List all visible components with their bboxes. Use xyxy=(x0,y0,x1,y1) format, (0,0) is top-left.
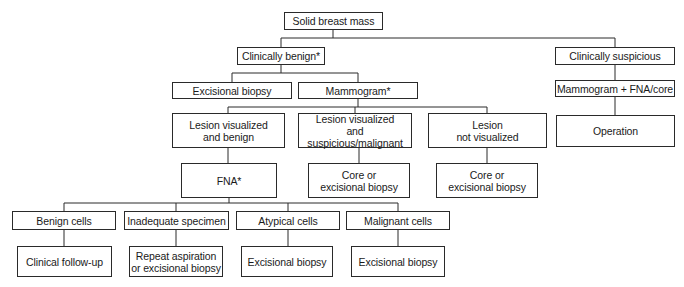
node-label-line1: Lesion xyxy=(472,119,502,131)
node-label: Clinical follow-up xyxy=(26,256,103,268)
node-lesion-visualized-benign: Lesion visualized and benign xyxy=(172,113,285,148)
node-label-line2: excisional biopsy xyxy=(448,181,526,193)
node-atypical-cells: Atypical cells xyxy=(236,211,340,230)
node-excisional-biopsy-malignant: Excisional biopsy xyxy=(351,246,445,277)
node-label: Atypical cells xyxy=(258,215,317,227)
node-operation: Operation xyxy=(556,115,675,147)
node-label: Clinically suspicious xyxy=(569,50,660,62)
node-label-line2: or excisional biopsy xyxy=(131,262,221,274)
node-mammogram-fna-core: Mammogram + FNA/core xyxy=(555,80,675,97)
node-label-line1: Core or xyxy=(342,169,376,181)
node-label: Mammogram + FNA/core xyxy=(557,83,673,95)
node-label: FNA* xyxy=(217,175,242,187)
node-label: Excisional biopsy xyxy=(193,85,272,97)
node-label: Inadequate specimen xyxy=(127,215,226,227)
node-label-line2: and suspicious/malignant xyxy=(299,125,411,149)
node-excisional-biopsy: Excisional biopsy xyxy=(172,82,292,99)
node-excisional-biopsy-atypical: Excisional biopsy xyxy=(241,246,333,277)
node-fna: FNA* xyxy=(181,163,277,198)
node-clinically-benign: Clinically benign* xyxy=(237,47,325,65)
node-label: Mammogram* xyxy=(326,85,391,97)
node-label: Malignant cells xyxy=(364,215,432,227)
node-solid-breast-mass: Solid breast mass xyxy=(284,12,383,30)
node-label: Benign cells xyxy=(36,215,91,227)
node-label-line1: Repeat aspiration xyxy=(136,250,217,262)
node-label: Operation xyxy=(593,125,638,137)
node-core-excisional-biopsy-suspicious: Core or excisional biopsy xyxy=(308,163,410,198)
node-repeat-aspiration: Repeat aspiration or excisional biopsy xyxy=(129,246,223,277)
node-benign-cells: Benign cells xyxy=(12,211,116,230)
node-lesion-not-visualized: Lesion not visualized xyxy=(428,113,547,148)
node-malignant-cells: Malignant cells xyxy=(346,211,450,230)
node-label: Clinically benign* xyxy=(242,50,320,62)
node-inadequate-specimen: Inadequate specimen xyxy=(124,211,229,230)
node-label-line1: Lesion visualized xyxy=(316,113,394,125)
node-label-line1: Core or xyxy=(470,169,504,181)
node-label: Excisional biopsy xyxy=(359,256,438,268)
node-clinically-suspicious: Clinically suspicious xyxy=(555,47,675,65)
node-label-line1: Lesion visualized xyxy=(189,119,267,131)
node-clinical-follow-up: Clinical follow-up xyxy=(17,246,112,277)
node-core-excisional-biopsy-not-visualized: Core or excisional biopsy xyxy=(436,163,538,198)
node-mammogram: Mammogram* xyxy=(298,82,418,99)
node-label-line2: not visualized xyxy=(456,131,518,143)
node-label-line2: and benign xyxy=(203,131,254,143)
node-label: Solid breast mass xyxy=(293,15,375,27)
node-label-line2: excisional biopsy xyxy=(320,181,398,193)
node-label: Excisional biopsy xyxy=(248,256,327,268)
node-lesion-visualized-suspicious: Lesion visualized and suspicious/maligna… xyxy=(298,113,412,148)
